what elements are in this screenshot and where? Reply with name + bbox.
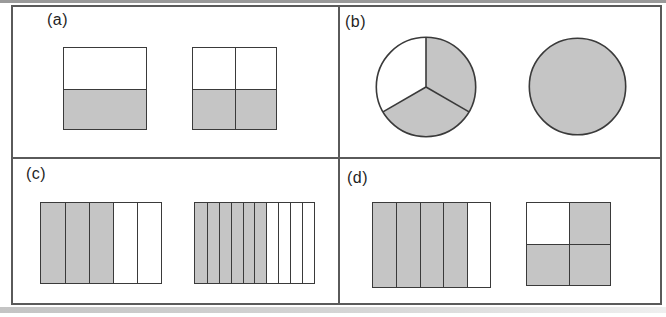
shaded-circle <box>529 38 625 134</box>
scan-shadow-bottom <box>0 307 666 313</box>
unshaded-cell <box>302 203 314 283</box>
three-quarters-shaded-square <box>526 202 611 286</box>
fraction-diagrams-figure: (a) (b) (c) (d) <box>0 0 666 317</box>
unshaded-cell <box>193 48 235 89</box>
shaded-cell <box>235 89 277 130</box>
two-thirds-shaded-circle <box>375 36 477 138</box>
scan-artifact-top-line <box>0 0 666 3</box>
two-quarters-shaded-square <box>192 47 277 130</box>
half-shaded-square <box>63 47 147 130</box>
shaded-cell <box>420 203 443 287</box>
shaded-cell <box>254 203 266 283</box>
shaded-cell <box>64 89 146 130</box>
panel-c-label: (c) <box>26 165 46 183</box>
shaded-cell <box>219 203 231 283</box>
unshaded-cell <box>467 203 490 287</box>
unshaded-cell <box>527 203 569 244</box>
shaded-cell <box>231 203 243 283</box>
panel-d-label: (d) <box>347 169 368 187</box>
shaded-cell <box>65 203 89 283</box>
shaded-cell <box>527 244 569 285</box>
unshaded-cell <box>235 48 277 89</box>
unshaded-cell <box>64 48 146 89</box>
three-fifths-shaded-rectangle <box>40 202 162 284</box>
shaded-cell <box>569 203 611 244</box>
shaded-cell <box>396 203 419 287</box>
shaded-cell <box>373 203 396 287</box>
shaded-cell <box>193 89 235 130</box>
shaded-cell <box>443 203 466 287</box>
shaded-cell <box>207 203 219 283</box>
shaded-cell <box>243 203 255 283</box>
six-tenths-shaded-rectangle <box>194 202 315 284</box>
unshaded-cell <box>278 203 290 283</box>
unshaded-cell <box>137 203 161 283</box>
panel-a: (a) <box>13 7 338 157</box>
shaded-cell <box>41 203 65 283</box>
panel-b: (b) <box>340 7 660 157</box>
pie-svg <box>528 37 627 136</box>
unshaded-cell <box>266 203 278 283</box>
unshaded-cell <box>113 203 137 283</box>
panel-a-label: (a) <box>47 11 68 29</box>
panel-c: (c) <box>13 159 338 303</box>
unshaded-cell <box>290 203 302 283</box>
figure-frame: (a) (b) (c) (d) <box>11 5 662 305</box>
panel-b-label: (b) <box>345 13 366 31</box>
pie-svg <box>375 36 477 138</box>
fully-shaded-circle <box>528 37 627 136</box>
panel-d: (d) <box>340 159 660 303</box>
shaded-cell <box>569 244 611 285</box>
shaded-cell <box>89 203 113 283</box>
shaded-cell <box>195 203 207 283</box>
four-fifths-shaded-rectangle <box>372 202 491 288</box>
